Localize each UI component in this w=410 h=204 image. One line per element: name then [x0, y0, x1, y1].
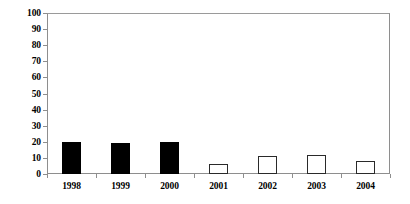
y-tick-label: 60	[0, 71, 41, 83]
x-tick-mark	[390, 174, 391, 178]
x-tick-mark	[194, 174, 195, 178]
y-tick-label: 20	[0, 136, 41, 148]
x-tick-mark	[47, 174, 48, 178]
x-tick-mark	[243, 174, 244, 178]
y-axis: 1009080706050403020100	[0, 0, 47, 204]
y-tick-label: 70	[0, 55, 41, 67]
bar-1998	[62, 142, 81, 174]
y-tick-mark	[43, 13, 47, 14]
y-tick-mark	[43, 77, 47, 78]
x-tick-mark	[292, 174, 293, 178]
y-tick-label: 10	[0, 152, 41, 164]
y-tick-label: 90	[0, 23, 41, 35]
bar-2004	[356, 161, 375, 174]
x-axis-label: 2002	[243, 180, 292, 193]
x-tick-mark	[341, 174, 342, 178]
y-tick-label: 100	[0, 7, 41, 19]
bar-chart: 1009080706050403020100 19981999200020012…	[0, 0, 410, 204]
y-tick-label: 30	[0, 120, 41, 132]
bar-2000	[160, 142, 179, 174]
y-tick-mark	[43, 29, 47, 30]
bar-2001	[209, 164, 228, 174]
y-tick-mark	[43, 110, 47, 111]
x-axis-label: 2003	[292, 180, 341, 193]
y-tick-label: 40	[0, 104, 41, 116]
y-tick-mark	[43, 126, 47, 127]
y-tick-mark	[43, 94, 47, 95]
y-tick-mark	[43, 158, 47, 159]
y-tick-mark	[43, 142, 47, 143]
y-tick-mark	[43, 61, 47, 62]
x-axis-label: 1999	[96, 180, 145, 193]
y-tick-mark	[43, 45, 47, 46]
y-tick-label: 0	[0, 168, 41, 180]
x-axis-label: 1998	[47, 180, 96, 193]
y-tick-label: 80	[0, 39, 41, 51]
x-axis-label: 2004	[341, 180, 390, 193]
x-tick-mark	[96, 174, 97, 178]
bar-2002	[258, 156, 277, 174]
bar-1999	[111, 143, 130, 174]
y-tick-label: 50	[0, 88, 41, 100]
x-tick-mark	[145, 174, 146, 178]
plot-area	[47, 13, 390, 174]
x-axis-label: 2001	[194, 180, 243, 193]
x-axis-label: 2000	[145, 180, 194, 193]
bar-2003	[307, 155, 326, 174]
